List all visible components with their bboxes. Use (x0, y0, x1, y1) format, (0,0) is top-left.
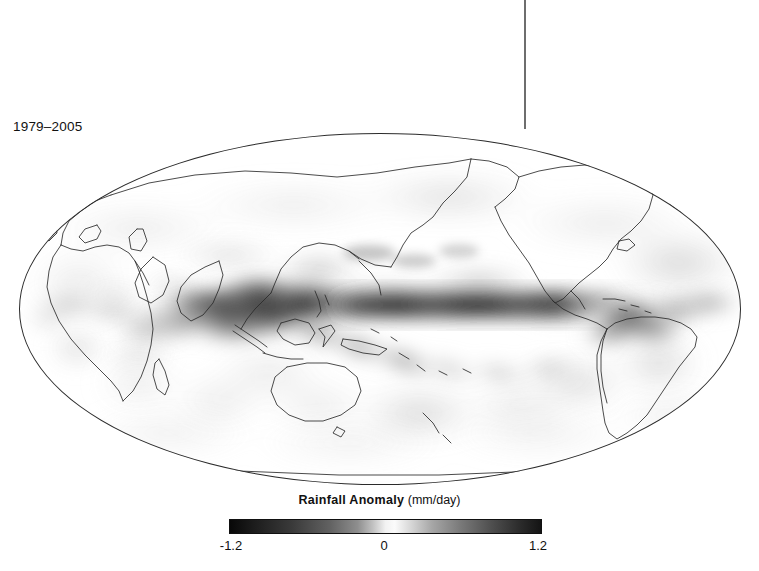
colorbar-gradient (229, 519, 542, 534)
colorbar-title: Rainfall Anomaly (mm/day) (0, 492, 759, 508)
vertical-divider-rule (524, 0, 526, 129)
world-map-mollweide (19, 133, 741, 485)
period-label: 1979–2005 (13, 119, 82, 134)
colorbar-tick-min: -1.2 (220, 538, 242, 553)
colorbar-legend: Rainfall Anomaly (mm/day) -1.2 0 1.2 (0, 492, 759, 508)
colorbar-tick-max: 1.2 (529, 538, 547, 553)
map-clip-region (19, 133, 741, 485)
coastline-overlay (19, 133, 741, 485)
colorbar-title-main: Rainfall Anomaly (298, 493, 404, 507)
colorbar-title-unit: (mm/day) (408, 493, 461, 507)
colorbar-tick-mid: 0 (380, 538, 387, 553)
